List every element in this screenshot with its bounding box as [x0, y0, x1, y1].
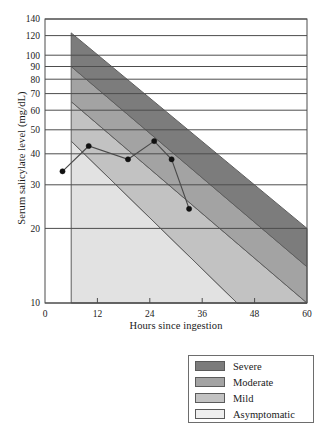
- legend-item-asymptomatic: Asymptomatic: [189, 406, 313, 422]
- salicylate-nomogram-figure: 10203040506070809010012014001224364860 S…: [0, 0, 322, 426]
- plot-area: 10203040506070809010012014001224364860 S…: [0, 0, 322, 340]
- legend-item-severe: Severe: [189, 358, 313, 374]
- legend-swatch-mild: [195, 393, 225, 403]
- nomogram-svg: 10203040506070809010012014001224364860: [0, 0, 322, 340]
- x-tick-label-36: 36: [197, 309, 207, 319]
- y-axis-label: Serum salicylate level (mg/dL): [16, 33, 36, 283]
- legend-item-mild: Mild: [189, 390, 313, 406]
- x-tick-label-60: 60: [302, 309, 312, 319]
- y-tick-label-140: 140: [26, 14, 41, 24]
- x-axis-label: Hours since ingestion: [44, 320, 308, 331]
- legend-label-severe: Severe: [233, 361, 262, 372]
- data-point-2: [125, 157, 130, 162]
- data-point-5: [187, 206, 192, 211]
- legend-swatch-asymptomatic: [195, 409, 225, 419]
- data-point-3: [152, 139, 157, 144]
- chart-legend: Severe Moderate Mild Asymptomatic: [188, 355, 314, 423]
- legend-label-mild: Mild: [233, 393, 253, 404]
- data-point-0: [60, 169, 65, 174]
- x-tick-label-0: 0: [43, 309, 48, 319]
- y-tick-label-10: 10: [31, 298, 41, 308]
- x-tick-label-12: 12: [93, 309, 103, 319]
- x-tick-label-48: 48: [250, 309, 260, 319]
- legend-swatch-moderate: [195, 377, 225, 387]
- data-point-4: [169, 157, 174, 162]
- data-point-1: [86, 143, 91, 148]
- legend-label-moderate: Moderate: [233, 377, 273, 388]
- x-tick-label-24: 24: [145, 309, 155, 319]
- legend-item-moderate: Moderate: [189, 374, 313, 390]
- legend-swatch-severe: [195, 361, 225, 371]
- legend-label-asymptomatic: Asymptomatic: [233, 409, 295, 420]
